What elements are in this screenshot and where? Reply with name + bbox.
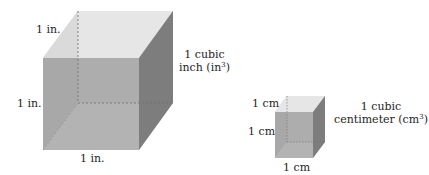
- inch-width-label: 1 in.: [80, 152, 105, 165]
- front-face: [43, 58, 139, 150]
- cubic-centimeter-cube: [275, 96, 325, 158]
- front-face: [275, 112, 313, 158]
- inch-height-label: 1 in.: [17, 97, 42, 110]
- cubic-inch-line1: 1 cubic: [179, 48, 230, 61]
- cubes-diagram: [0, 0, 429, 175]
- cubic-cm-line2: centimeter (cm3): [334, 113, 428, 126]
- cubic-cm-line1: 1 cubic: [334, 100, 428, 113]
- cm-width-label: 1 cm: [283, 161, 310, 174]
- cm-height-label: 1 cm: [248, 125, 275, 138]
- cm-depth-label: 1 cm: [252, 97, 279, 110]
- cubic-inch-volume-label: 1 cubic inch (in3): [179, 48, 230, 74]
- inch-depth-label: 1 in.: [36, 23, 61, 36]
- cubic-cm-volume-label: 1 cubic centimeter (cm3): [334, 100, 428, 126]
- cubic-inch-line2: inch (in3): [179, 61, 230, 74]
- cubic-inch-cube: [43, 11, 173, 150]
